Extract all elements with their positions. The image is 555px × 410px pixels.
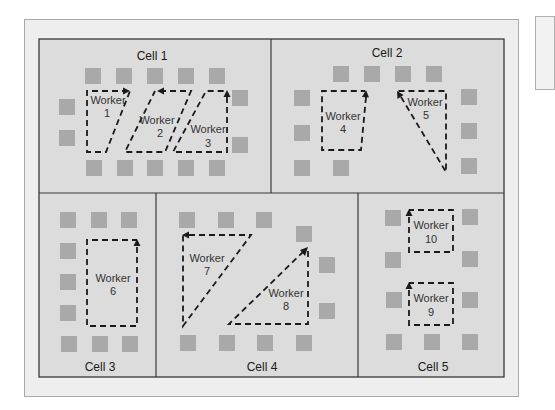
machine xyxy=(386,334,402,350)
machine xyxy=(319,257,335,273)
machine xyxy=(296,226,312,242)
machine xyxy=(59,99,75,115)
worker-number: 2 xyxy=(157,127,163,139)
machine xyxy=(218,212,234,228)
worker-label: Worker xyxy=(190,123,226,135)
machine xyxy=(116,68,132,84)
machine xyxy=(60,212,76,228)
machine xyxy=(86,160,102,176)
machine xyxy=(461,89,477,105)
machine xyxy=(294,125,310,141)
machine xyxy=(426,66,442,82)
machine xyxy=(59,130,75,146)
machine xyxy=(122,336,138,352)
machine xyxy=(232,90,248,106)
cell-label: Cell 2 xyxy=(372,46,403,60)
machine xyxy=(385,210,401,226)
worker-number: 10 xyxy=(425,233,437,245)
cell-label: Cell 1 xyxy=(137,49,168,63)
machine xyxy=(257,335,273,351)
cell-label: Cell 5 xyxy=(418,360,449,374)
machine xyxy=(461,123,477,139)
machine xyxy=(179,212,195,228)
machine xyxy=(91,212,107,228)
machine xyxy=(462,209,478,225)
worker-number: 4 xyxy=(340,123,346,135)
worker-number: 3 xyxy=(205,137,211,149)
machine xyxy=(117,160,133,176)
machine xyxy=(92,336,108,352)
machine xyxy=(395,66,411,82)
machine xyxy=(85,68,101,84)
worker-number: 8 xyxy=(283,300,289,312)
worker-label: Worker xyxy=(268,287,304,299)
worker-number: 5 xyxy=(423,109,429,121)
machine xyxy=(219,335,235,351)
machine xyxy=(147,160,163,176)
machine xyxy=(462,334,478,350)
machine xyxy=(319,303,335,319)
cell-label: Cell 3 xyxy=(85,360,116,374)
machine xyxy=(333,160,349,176)
worker-label: Worker xyxy=(413,292,449,304)
machine xyxy=(121,212,137,228)
machine xyxy=(461,158,477,174)
machine xyxy=(333,66,349,82)
machine xyxy=(296,335,312,351)
machine xyxy=(385,252,401,268)
machine xyxy=(424,334,440,350)
machine xyxy=(180,335,196,351)
machine xyxy=(209,68,225,84)
worker-label: Worker xyxy=(325,110,361,122)
machine xyxy=(147,68,163,84)
worker-number: 9 xyxy=(428,306,434,318)
machine xyxy=(178,160,194,176)
machine xyxy=(294,160,310,176)
machine xyxy=(294,90,310,106)
worker-label: Worker xyxy=(95,272,131,284)
machine xyxy=(462,251,478,267)
machine xyxy=(60,243,76,259)
machine xyxy=(462,292,478,308)
machine xyxy=(61,336,77,352)
worker-label: Worker xyxy=(189,252,225,264)
worker-label: Worker xyxy=(90,94,126,106)
worker-number: 7 xyxy=(204,265,210,277)
worker-label: Worker xyxy=(407,96,443,108)
machine xyxy=(178,68,194,84)
worker-label: Worker xyxy=(139,114,175,126)
machine xyxy=(60,274,76,290)
machine xyxy=(232,137,248,153)
worker-number: 1 xyxy=(104,107,110,119)
worker-number: 6 xyxy=(110,285,116,297)
machine xyxy=(209,160,225,176)
worker-label: Worker xyxy=(413,219,449,231)
machine xyxy=(60,305,76,321)
machine xyxy=(364,66,380,82)
machine xyxy=(256,212,272,228)
machine xyxy=(386,292,402,308)
cell-label: Cell 4 xyxy=(247,360,278,374)
